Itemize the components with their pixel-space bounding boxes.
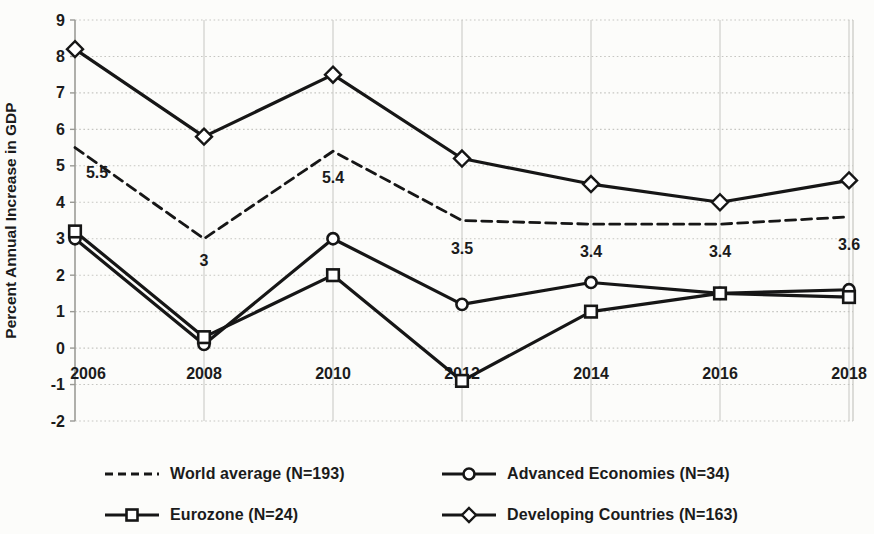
y-tick-label: -1 [51, 376, 65, 393]
eurozone-marker-square [714, 288, 726, 300]
developing-countries-marker-diamond [712, 194, 728, 210]
eurozone-marker-square [456, 375, 468, 387]
world-average-data-label: 5.4 [322, 169, 344, 186]
developing-countries-marker-diamond [841, 172, 857, 188]
page: { "chart_data": { "type": "line", "title… [0, 0, 874, 534]
world-average-data-label: 3.4 [580, 243, 602, 260]
circle-marker-icon [440, 466, 498, 482]
advanced-economies-marker-circle [327, 233, 338, 244]
legend-label-advanced-economies: Advanced Economies (N=34) [507, 465, 730, 483]
chart-plot-area: 9876543210-1-220062008201020122014201620… [0, 0, 874, 448]
developing-countries-marker-diamond [325, 67, 341, 83]
legend-label-world-average: World average (N=193) [170, 465, 345, 483]
legend-item-world-average: World average (N=193) [103, 465, 440, 483]
legend-item-eurozone: Eurozone (N=24) [103, 506, 440, 524]
eurozone-marker-square [69, 226, 81, 238]
advanced-economies-marker-circle [456, 299, 467, 310]
eurozone-marker-square [198, 331, 210, 343]
y-tick-label: 4 [56, 194, 65, 211]
y-axis-title: Percent Annual Increase in GDP [2, 102, 19, 338]
developing-countries-marker-diamond [454, 151, 470, 167]
legend-item-developing-countries: Developing Countries (N=163) [440, 506, 738, 524]
square-marker-icon [103, 507, 161, 523]
y-tick-label: 7 [56, 84, 65, 101]
x-tick-label: 2006 [70, 365, 106, 382]
chart-legend: World average (N=193) Advanced Economies… [103, 453, 738, 534]
eurozone-marker-square [843, 291, 855, 303]
y-tick-label: 9 [56, 12, 65, 29]
eurozone-marker-square [585, 306, 597, 318]
y-tick-label: 2 [56, 267, 65, 284]
legend-label-eurozone: Eurozone (N=24) [170, 506, 298, 524]
x-tick-label: 2016 [702, 365, 738, 382]
developing-countries-marker-diamond [583, 176, 599, 192]
y-tick-label: 8 [56, 48, 65, 65]
world-average-data-label: 3 [200, 252, 209, 269]
y-tick-label: 3 [56, 230, 65, 247]
legend-label-developing-countries: Developing Countries (N=163) [507, 506, 738, 524]
y-tick-label: 0 [56, 340, 65, 357]
x-tick-label: 2018 [831, 365, 867, 382]
world-average-data-label: 3.5 [451, 240, 473, 257]
legend-item-advanced-economies: Advanced Economies (N=34) [440, 465, 738, 483]
world-average-data-label: 3.6 [838, 236, 860, 253]
gdp-growth-chart: 9876543210-1-220062008201020122014201620… [0, 0, 874, 448]
y-tick-label: 5 [56, 157, 65, 174]
eurozone-marker-square [327, 269, 339, 281]
x-tick-label: 2010 [315, 365, 351, 382]
x-tick-label: 2014 [573, 365, 609, 382]
world-average-data-label: 3.4 [709, 243, 731, 260]
y-tick-label: 6 [56, 121, 65, 138]
dashed-line-icon [103, 467, 161, 481]
diamond-marker-icon [440, 506, 498, 524]
world-average-data-label: 5.5 [86, 164, 108, 181]
x-tick-label: 2008 [186, 365, 222, 382]
y-tick-label: -2 [51, 413, 65, 430]
advanced-economies-marker-circle [585, 277, 596, 288]
y-tick-label: 1 [56, 303, 65, 320]
